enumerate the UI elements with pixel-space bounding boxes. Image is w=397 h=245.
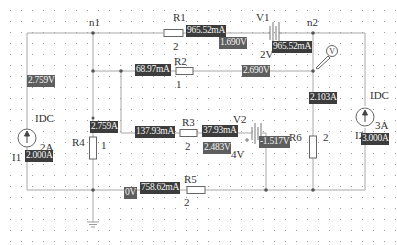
circuit-wires: V — [0, 0, 397, 245]
node-label-n1: n1 — [89, 17, 100, 28]
node-label-n2: n2 — [307, 17, 318, 28]
resistor-r1 — [164, 30, 183, 37]
probe-i2-current[interactable]: 3.000A — [361, 133, 389, 145]
v1-name: V1 — [256, 12, 269, 23]
probe-ground-voltage[interactable]: 0V — [124, 187, 137, 199]
r4-value: 1 — [101, 140, 107, 151]
svg-text:V: V — [329, 47, 335, 56]
i2-value: 3A — [375, 120, 388, 131]
resistor-r2 — [176, 68, 193, 75]
probe-n1-right-voltage[interactable]: 1.690V — [219, 37, 247, 49]
r1-name: R1 — [173, 12, 186, 23]
r2-name: R2 — [174, 56, 187, 67]
probe-r3-left-current[interactable]: 137.93mA — [135, 126, 175, 138]
resistor-r4 — [90, 137, 97, 159]
r6-value: 2 — [323, 132, 329, 143]
probe-r2-current[interactable]: 68.97mA — [135, 64, 171, 76]
r4-name: R4 — [72, 137, 85, 148]
v2-name: V2 — [233, 114, 246, 125]
i2-type: IDC — [370, 90, 389, 101]
probe-v2-right-voltage[interactable]: -1.517V — [259, 136, 290, 148]
probe-left-voltage[interactable]: 2.759V — [27, 75, 55, 87]
resistor-r6 — [310, 136, 317, 158]
resistor-r5 — [187, 187, 205, 194]
probe-v2-voltage[interactable]: 2.483V — [203, 142, 231, 154]
probe-v1-current[interactable]: 965.52mA — [272, 41, 312, 53]
i1-name: I1 — [12, 152, 21, 163]
r5-name: R5 — [184, 174, 197, 185]
r6-name: R6 — [289, 132, 302, 143]
r2-value: 1 — [176, 79, 182, 90]
r5-value: 2 — [184, 197, 190, 208]
probe-r3-right-current[interactable]: 37.93mA — [202, 125, 238, 137]
probe-r1-current[interactable]: 965.52mA — [186, 25, 226, 37]
ground-icon — [87, 222, 99, 227]
resistor-r3 — [180, 130, 197, 137]
probe-n2-voltage[interactable]: 2.690V — [242, 65, 270, 77]
i1-type: IDC — [35, 113, 54, 124]
r3-name: R3 — [182, 117, 195, 128]
v2-value: 4V — [231, 149, 244, 160]
probe-r4-current[interactable]: 2.759A — [90, 121, 118, 133]
probe-i1-current[interactable]: 2.000A — [25, 150, 53, 162]
probe-r5-current[interactable]: 758.62mA — [140, 182, 180, 194]
r1-value: 2 — [173, 41, 179, 52]
r3-value: 2 — [185, 141, 191, 152]
probe-r6-current[interactable]: 2.103A — [309, 92, 337, 104]
